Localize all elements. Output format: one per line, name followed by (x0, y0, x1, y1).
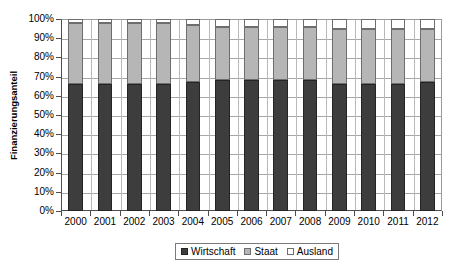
legend-label-ausland: Ausland (297, 246, 333, 257)
legend-swatch-icon-ausland (287, 248, 294, 255)
bar-segment-ausland[interactable] (98, 19, 113, 23)
bar-column[interactable] (244, 19, 259, 211)
bar-segment-staat[interactable] (244, 27, 259, 81)
bar-segment-ausland[interactable] (332, 19, 347, 29)
bar-segment-wirtschaft[interactable] (156, 84, 171, 211)
bar-segment-wirtschaft[interactable] (332, 84, 347, 211)
bar-segment-ausland[interactable] (156, 19, 171, 23)
y-axis-tick-label: 100% (8, 14, 54, 24)
bar-column[interactable] (215, 19, 230, 211)
bar-segment-ausland[interactable] (127, 19, 142, 23)
bar-segment-ausland[interactable] (303, 19, 318, 27)
bar-segment-ausland[interactable] (68, 19, 83, 23)
y-axis-tick-label: 90% (8, 33, 54, 43)
bar-segment-staat[interactable] (303, 27, 318, 81)
bar-segment-staat[interactable] (156, 23, 171, 84)
bar-segment-wirtschaft[interactable] (391, 84, 406, 211)
y-axis-tick-label: 60% (8, 91, 54, 101)
bar-column[interactable] (361, 19, 376, 211)
y-axis-tick-label: 40% (8, 129, 54, 139)
bar-column[interactable] (273, 19, 288, 211)
bar-segment-ausland[interactable] (215, 19, 230, 27)
bar-column[interactable] (156, 19, 171, 211)
legend-swatch-icon-wirtschaft (181, 248, 188, 255)
legend-item-ausland: Ausland (287, 246, 333, 257)
bar-segment-wirtschaft[interactable] (361, 84, 376, 211)
bar-segment-staat[interactable] (361, 29, 376, 85)
bar-segment-staat[interactable] (273, 27, 288, 81)
bar-segment-wirtschaft[interactable] (127, 84, 142, 211)
stacked-bar-chart: Finanzierungsanteil 100%90%80%70%60%50%4… (0, 0, 465, 273)
bar-segment-ausland[interactable] (186, 19, 201, 25)
bar-column[interactable] (68, 19, 83, 211)
y-axis-tick-label: 70% (8, 72, 54, 82)
bar-column[interactable] (391, 19, 406, 211)
bar-column[interactable] (127, 19, 142, 211)
bar-series-container (61, 19, 442, 211)
bar-segment-staat[interactable] (215, 27, 230, 81)
y-axis-tick-label: 0% (8, 206, 54, 216)
bar-segment-wirtschaft[interactable] (303, 80, 318, 211)
bar-segment-wirtschaft[interactable] (98, 84, 113, 211)
bar-segment-ausland[interactable] (244, 19, 259, 27)
bar-segment-wirtschaft[interactable] (244, 80, 259, 211)
bar-segment-ausland[interactable] (420, 19, 435, 29)
y-axis-tick-label: 20% (8, 168, 54, 178)
bar-column[interactable] (186, 19, 201, 211)
legend-item-staat: Staat (244, 246, 277, 257)
bar-segment-wirtschaft[interactable] (420, 82, 435, 211)
bar-segment-ausland[interactable] (391, 19, 406, 29)
bar-segment-staat[interactable] (332, 29, 347, 85)
bar-segment-wirtschaft[interactable] (186, 82, 201, 211)
bar-segment-staat[interactable] (98, 23, 113, 84)
y-axis-tick-label: 50% (8, 110, 54, 120)
y-axis-tick-label: 80% (8, 52, 54, 62)
y-axis-tick-label: 30% (8, 148, 54, 158)
x-axis-label: 2012 (407, 216, 447, 228)
bar-segment-staat[interactable] (391, 29, 406, 85)
bar-segment-ausland[interactable] (273, 19, 288, 27)
bar-segment-staat[interactable] (420, 29, 435, 83)
chart-legend: Wirtschaft Staat Ausland (175, 243, 339, 260)
bar-column[interactable] (420, 19, 435, 211)
legend-item-wirtschaft: Wirtschaft (181, 246, 235, 257)
bar-segment-ausland[interactable] (361, 19, 376, 29)
bar-segment-staat[interactable] (127, 23, 142, 84)
bar-column[interactable] (98, 19, 113, 211)
y-axis-tick-label: 10% (8, 187, 54, 197)
bar-segment-wirtschaft[interactable] (273, 80, 288, 211)
bar-segment-staat[interactable] (186, 25, 201, 83)
bar-segment-wirtschaft[interactable] (68, 84, 83, 211)
bar-column[interactable] (303, 19, 318, 211)
legend-swatch-icon-staat (244, 248, 251, 255)
legend-label-staat: Staat (254, 246, 277, 257)
bar-segment-staat[interactable] (68, 23, 83, 84)
legend-label-wirtschaft: Wirtschaft (191, 246, 235, 257)
bar-segment-wirtschaft[interactable] (215, 80, 230, 211)
bar-column[interactable] (332, 19, 347, 211)
